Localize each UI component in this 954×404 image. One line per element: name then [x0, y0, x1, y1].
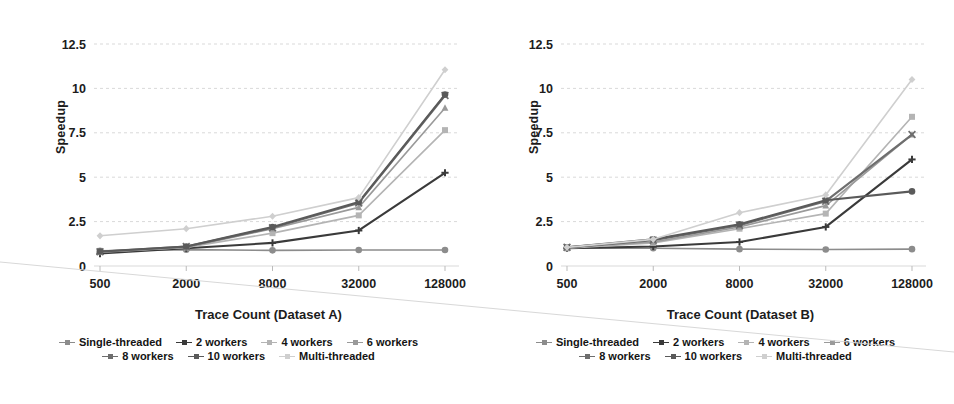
series-multi-threaded [97, 66, 449, 239]
speedup-figure: 02.557.51012.55002000800032000128000 Spe… [0, 0, 954, 404]
y-tick-label: 10 [72, 82, 86, 96]
x-tick-label: 32000 [341, 277, 376, 291]
legend-item[interactable]: 4 workers [261, 336, 332, 348]
legend-item[interactable]: 2 workers [653, 336, 724, 348]
legend-item[interactable]: 2 workers [176, 336, 247, 348]
line-chart-a: 02.557.51012.55002000800032000128000 [0, 0, 477, 330]
series-single-threaded [564, 245, 916, 253]
series-10-workers [97, 91, 449, 254]
legend-marker-icon [824, 337, 840, 347]
legend-label: Single-threaded [556, 336, 639, 348]
legend-marker-icon [176, 337, 192, 347]
legend-row: Single-threaded2 workers4 workers6 worke… [59, 336, 418, 348]
legend-marker-icon [347, 337, 363, 347]
legend-label: 4 workers [758, 336, 809, 348]
y-axis-label-b: Speedup [527, 82, 541, 172]
x-tick-label: 2000 [172, 277, 200, 291]
legend-marker-icon [579, 351, 595, 361]
legend-item[interactable]: Multi-threaded [279, 350, 375, 362]
legend-item[interactable]: 8 workers [579, 350, 650, 362]
legend-item[interactable]: 10 workers [188, 350, 265, 362]
x-tick-label: 128000 [424, 277, 466, 291]
legend-item[interactable]: 6 workers [824, 336, 895, 348]
series-2-workers [563, 156, 915, 252]
x-tick-label: 500 [90, 277, 111, 291]
legend-marker-icon [188, 351, 204, 361]
legend-a: Single-threaded2 workers4 workers6 worke… [0, 336, 477, 362]
x-axis-label-b: Trace Count (Dataset B) [477, 307, 954, 322]
y-tick-label: 7.5 [69, 126, 86, 140]
y-tick-label: 0 [546, 260, 553, 274]
legend-marker-icon [738, 337, 754, 347]
series-8-workers [564, 131, 916, 251]
legend-label: Single-threaded [79, 336, 162, 348]
legend-marker-icon [756, 351, 772, 361]
series-6-workers [564, 131, 916, 250]
legend-item[interactable]: Single-threaded [536, 336, 639, 348]
legend-item[interactable]: 8 workers [102, 350, 173, 362]
x-tick-label: 32000 [808, 277, 843, 291]
legend-label: 2 workers [673, 336, 724, 348]
legend-label: 8 workers [122, 350, 173, 362]
legend-row: 8 workers10 workersMulti-threaded [579, 350, 852, 362]
legend-b: Single-threaded2 workers4 workers6 worke… [477, 336, 954, 362]
legend-marker-icon [653, 337, 669, 347]
line-chart-b: 02.557.51012.55002000800032000128000 [477, 0, 954, 330]
y-tick-label: 2.5 [536, 215, 553, 229]
y-tick-label: 2.5 [69, 215, 86, 229]
y-axis-label-a: Speedup [54, 82, 68, 172]
x-tick-label: 8000 [726, 277, 754, 291]
legend-marker-icon [261, 337, 277, 347]
legend-row: Single-threaded2 workers4 workers6 worke… [536, 336, 895, 348]
y-tick-label: 5 [79, 171, 86, 185]
x-tick-label: 500 [557, 277, 578, 291]
legend-label: 6 workers [367, 336, 418, 348]
legend-label: Multi-threaded [776, 350, 852, 362]
legend-marker-icon [536, 337, 552, 347]
legend-label: Multi-threaded [299, 350, 375, 362]
legend-label: 10 workers [685, 350, 742, 362]
legend-item[interactable]: Single-threaded [59, 336, 162, 348]
chart-panel-a: 02.557.51012.55002000800032000128000 Spe… [0, 0, 477, 404]
chart-panel-b: 02.557.51012.55002000800032000128000 Spe… [477, 0, 954, 404]
legend-label: 6 workers [844, 336, 895, 348]
x-tick-label: 8000 [259, 277, 287, 291]
legend-label: 4 workers [281, 336, 332, 348]
y-tick-label: 12.5 [62, 38, 86, 52]
x-tick-label: 2000 [639, 277, 667, 291]
legend-marker-icon [665, 351, 681, 361]
legend-item[interactable]: 4 workers [738, 336, 809, 348]
y-tick-label: 10 [539, 82, 553, 96]
legend-marker-icon [102, 351, 118, 361]
legend-label: 2 workers [196, 336, 247, 348]
legend-item[interactable]: 6 workers [347, 336, 418, 348]
legend-label: 8 workers [599, 350, 650, 362]
y-tick-label: 5 [546, 171, 553, 185]
x-axis-label-a: Trace Count (Dataset A) [0, 307, 477, 322]
y-tick-label: 12.5 [529, 38, 553, 52]
x-tick-label: 128000 [891, 277, 933, 291]
legend-item[interactable]: Multi-threaded [756, 350, 852, 362]
legend-marker-icon [279, 351, 295, 361]
y-tick-label: 0 [79, 260, 86, 274]
legend-label: 10 workers [208, 350, 265, 362]
legend-marker-icon [59, 337, 75, 347]
legend-item[interactable]: 10 workers [665, 350, 742, 362]
series-4-workers [564, 114, 915, 251]
series-4-workers [97, 127, 448, 255]
legend-row: 8 workers10 workersMulti-threaded [102, 350, 375, 362]
